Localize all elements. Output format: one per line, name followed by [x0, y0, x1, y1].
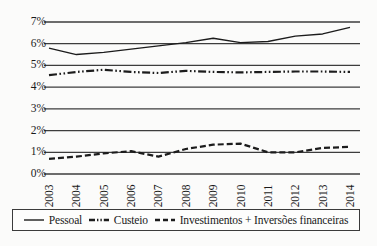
legend-item-3: Investimentos + Inversões financeiras: [155, 214, 349, 226]
gridlines-group: [44, 22, 360, 174]
y-axis-tick-label: 3%: [18, 103, 46, 115]
legend-item-label: Investimentos + Inversões financeiras: [180, 214, 349, 226]
legend-item-2: Custeio: [89, 214, 148, 226]
series-line-1: [49, 27, 350, 54]
chart-figure: 7%6%5%4%3%2%1%0% 20032004200520062007200…: [0, 0, 377, 246]
series-group: [49, 27, 350, 158]
series-line-2: [49, 70, 350, 75]
legend-line-swatch-icon: [89, 215, 109, 225]
legend-line-swatch-icon: [155, 215, 175, 225]
legend-item-label: Pessoal: [49, 214, 82, 226]
y-axis-tick-label: 1%: [18, 146, 46, 158]
legend-item-1: Pessoal: [24, 214, 82, 226]
y-axis-tick-label: 5%: [18, 59, 46, 71]
legend-line-swatch-icon: [24, 215, 44, 225]
y-axis-tick-label: 7%: [18, 16, 46, 28]
y-axis-tick-label: 6%: [18, 38, 46, 50]
chart-legend: PessoalCusteioInvestimentos + Inversões …: [12, 209, 360, 231]
legend-item-label: Custeio: [114, 214, 148, 226]
plot-area: 7%6%5%4%3%2%1%0%: [0, 0, 377, 200]
y-axis-tick-labels: 7%6%5%4%3%2%1%0%: [14, 0, 46, 200]
line-chart-svg: [0, 0, 377, 200]
y-axis-tick-label: 4%: [18, 81, 46, 93]
series-line-3: [49, 144, 350, 159]
y-axis-tick-label: 2%: [18, 125, 46, 137]
